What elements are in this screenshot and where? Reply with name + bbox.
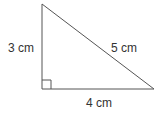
label-horizontal-side: 4 cm	[86, 96, 112, 110]
right-triangle	[42, 4, 154, 89]
label-hypotenuse: 5 cm	[111, 41, 137, 55]
label-vertical-side: 3 cm	[8, 41, 34, 55]
triangle-figure	[0, 0, 160, 125]
right-angle-marker	[42, 80, 51, 89]
